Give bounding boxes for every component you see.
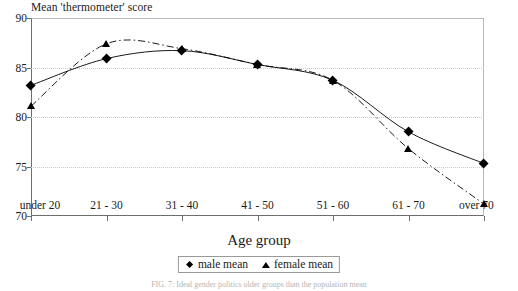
plot-area: 7075808590 [31, 18, 484, 216]
x-axis-tick-label: 31 - 40 [166, 199, 199, 211]
x-axis-tick-label: over 70 [459, 199, 494, 211]
x-axis-tick-label: under 20 [20, 199, 61, 211]
x-axis-tick [107, 216, 108, 221]
legend: male mean female mean [178, 256, 340, 273]
y-axis-tick-label: 85 [16, 62, 28, 74]
y-axis-tick-label: 75 [16, 161, 28, 173]
diamond-marker-icon [185, 260, 194, 269]
series-lines [31, 18, 484, 216]
y-axis-tick-label: 90 [16, 12, 28, 24]
triangle-marker-icon [261, 260, 270, 269]
x-axis-tick-label: 21 - 30 [90, 199, 123, 211]
figure-caption: FIG. 7: Ideal gender politics older grou… [0, 280, 518, 289]
legend-label-female: female mean [274, 258, 333, 270]
x-axis-tick [182, 216, 183, 221]
x-axis-tick [409, 216, 410, 221]
legend-item-female: female mean [261, 258, 333, 270]
x-axis-tick-label: 41 - 50 [241, 199, 274, 211]
x-axis-title: Age group [0, 232, 518, 249]
x-axis-tick [31, 216, 32, 221]
x-axis-tick [484, 216, 485, 221]
x-axis-tick-label: 61 - 70 [392, 199, 425, 211]
y-axis-tick-label: 70 [16, 210, 28, 222]
chart-title: Mean 'thermometer' score [31, 1, 153, 13]
x-axis-tick [333, 216, 334, 221]
x-axis-tick [258, 216, 259, 221]
y-axis-tick-label: 80 [16, 111, 28, 123]
legend-item-male: male mean [185, 258, 248, 270]
x-axis-tick-label: 51 - 60 [317, 199, 350, 211]
legend-label-male: male mean [198, 258, 248, 270]
thermometer-score-figure: Mean 'thermometer' score 7075808590 unde… [0, 0, 518, 291]
